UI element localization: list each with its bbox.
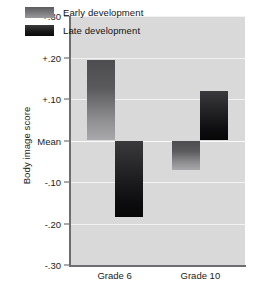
y-tick-label: Mean [1, 135, 61, 146]
legend-swatch-late [25, 25, 54, 36]
legend-item-early: Early development [25, 5, 143, 20]
y-tick-label: +.20 [1, 52, 61, 63]
gridline [70, 224, 245, 225]
y-tick-label: -.30 [1, 260, 61, 271]
y-tick-label: -.10 [1, 177, 61, 188]
legend-label: Early development [63, 7, 143, 18]
legend-label: Late development [63, 25, 140, 36]
y-axis-tick-labels: +.30+.20+.10Mean-.10-.20-.30 [0, 0, 70, 294]
legend-item-late: Late development [25, 23, 143, 38]
legend-swatch-early [25, 7, 54, 18]
gridline [70, 182, 245, 183]
bar-early-grade-6 [87, 60, 115, 141]
x-tick-label: Grade 6 [97, 270, 131, 281]
x-axis-line [69, 265, 246, 267]
y-tick-label: +.10 [1, 94, 61, 105]
gridline [70, 58, 245, 59]
bar-early-grade-10 [172, 141, 200, 170]
y-axis-line [69, 16, 71, 267]
plot-area [70, 16, 245, 265]
mean-baseline [70, 141, 245, 143]
x-tick-label: Grade 10 [181, 270, 221, 281]
y-tick-label: -.20 [1, 218, 61, 229]
bar-late-grade-6 [115, 141, 143, 218]
chart-legend: Early developmentLate development [25, 5, 143, 41]
bar-late-grade-10 [200, 91, 228, 141]
chart-figure: Body image score +.30+.20+.10Mean-.10-.2… [0, 0, 259, 294]
